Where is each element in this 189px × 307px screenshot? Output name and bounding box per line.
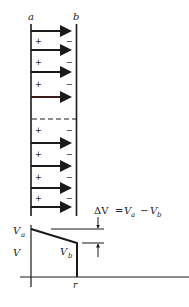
plus-charge: +: [35, 173, 42, 182]
minus-charge: −: [66, 80, 73, 89]
vb-curve-subscript: b: [68, 252, 73, 260]
plus-charge: +: [35, 194, 42, 203]
minus-charge: −: [66, 173, 73, 182]
potential-graph: V a V V b r: [13, 225, 189, 290]
capacitor-potential-diagram: a b + − + − + − + − + − + − + − ΔV = V a: [0, 0, 189, 307]
minus-charge: −: [66, 150, 73, 159]
plus-charge: +: [35, 58, 42, 67]
vb-subscript: b: [157, 211, 162, 219]
plus-charge: +: [35, 126, 42, 135]
plus-charge: +: [35, 37, 42, 46]
minus-charge: −: [66, 58, 73, 67]
v-axis-label: V: [13, 247, 22, 258]
plate-a-label: a: [28, 11, 34, 22]
equals-sign: =: [115, 205, 123, 216]
plus-charge: +: [35, 80, 42, 89]
va-axis-subscript: a: [21, 231, 25, 239]
minus-charge: −: [66, 194, 73, 203]
charges: + − + − + − + − + − + − + −: [35, 37, 73, 203]
minus-charge: −: [66, 37, 73, 46]
minus-sign: −: [140, 205, 148, 216]
va-subscript: a: [131, 211, 135, 219]
r-axis-label: r: [73, 280, 78, 290]
plate-b-label: b: [73, 11, 79, 22]
potential-difference-formula: ΔV = V a − V b: [94, 205, 162, 219]
plus-charge: +: [35, 150, 42, 159]
delta-v: ΔV: [94, 205, 109, 216]
minus-charge: −: [66, 126, 73, 135]
